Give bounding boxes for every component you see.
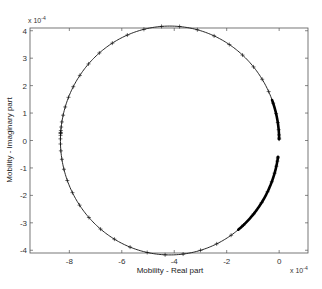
axis-ticks: -8-6-4-20-4-3-2-101234	[20, 27, 308, 266]
x-tick-label: -4	[171, 257, 179, 266]
y-tick-label: -1	[20, 164, 28, 173]
y-tick-label: -2	[20, 191, 28, 200]
axes-frame	[30, 28, 308, 253]
x-tick-label: 0	[277, 257, 282, 266]
y-exponent-label: x 10-4	[28, 15, 46, 24]
y-tick-label: 3	[23, 54, 28, 63]
x-tick-label: -8	[66, 257, 74, 266]
y-tick-label: -4	[20, 246, 28, 255]
x-exponent-label: x 10-4	[290, 265, 308, 274]
nyquist-plot: -8-6-4-20-4-3-2-101234 Mobility - Real p…	[0, 0, 322, 289]
mobility-curve	[58, 24, 281, 256]
x-tick-label: -6	[118, 257, 126, 266]
x-tick-label: -2	[223, 257, 231, 266]
y-tick-label: -3	[20, 219, 28, 228]
x-axis-label: Mobility - Real part	[137, 266, 204, 275]
y-tick-label: 2	[23, 82, 28, 91]
y-tick-label: 1	[23, 109, 28, 118]
y-tick-label: 0	[23, 137, 28, 146]
y-axis-label: Mobility - Imaginary part	[5, 97, 14, 183]
y-tick-label: 4	[23, 27, 28, 36]
